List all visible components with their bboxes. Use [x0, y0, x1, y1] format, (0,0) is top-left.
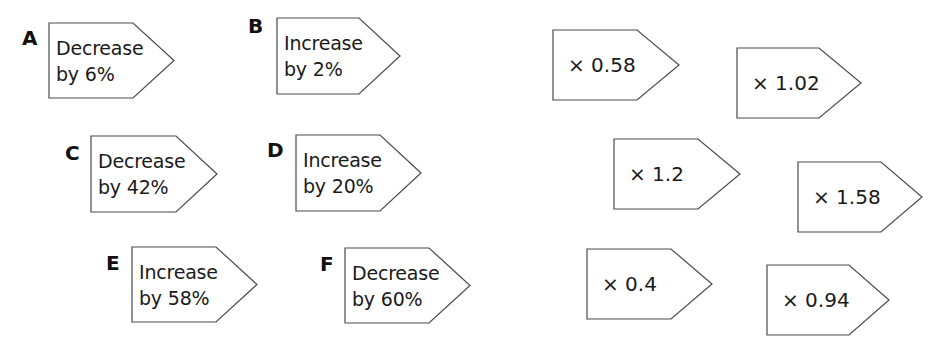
- multiplier-label: × 1.58: [813, 185, 881, 209]
- card-line1: Decrease: [352, 260, 439, 286]
- card-line2: by 60%: [352, 286, 422, 312]
- card-line2: by 2%: [284, 56, 343, 82]
- multiplier-label: × 0.4: [602, 272, 657, 296]
- card-line1: Decrease: [56, 35, 143, 61]
- multiplier-label: × 0.94: [782, 288, 850, 312]
- multiplier-label: × 0.58: [568, 53, 636, 77]
- card-letter: E: [106, 253, 120, 273]
- card-line2: by 20%: [303, 173, 373, 199]
- card-letter: A: [22, 28, 37, 48]
- card-letter: B: [248, 16, 263, 36]
- card-line1: Increase: [303, 147, 382, 173]
- card-line1: Decrease: [98, 148, 185, 174]
- card-letter: D: [267, 140, 284, 160]
- card-line2: by 42%: [98, 174, 168, 200]
- card-line2: by 6%: [56, 61, 115, 87]
- card-letter: C: [65, 143, 80, 163]
- card-line2: by 58%: [139, 285, 209, 311]
- card-line1: Increase: [139, 259, 218, 285]
- card-letter: F: [320, 254, 334, 274]
- multiplier-label: × 1.02: [752, 71, 820, 95]
- matching-activity: A Decrease by 6% B Increase by 2% C Decr…: [0, 0, 940, 358]
- card-line1: Increase: [284, 30, 363, 56]
- multiplier-label: × 1.2: [629, 162, 684, 186]
